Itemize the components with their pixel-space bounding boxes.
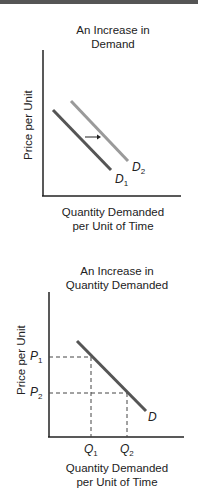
chart2-title-line2: Quantity Demanded <box>47 278 187 292</box>
chart2-title-line1: An Increase in <box>47 264 187 278</box>
chart2-q1-tick-label: Q1 <box>84 442 98 458</box>
chart2-p2-tick-label: P2 <box>30 385 42 401</box>
chart2-axes <box>48 292 184 437</box>
chart2-title: An Increase in Quantity Demanded <box>47 264 187 292</box>
chart1-d2-curve <box>71 101 128 161</box>
chart2-d-label: D <box>148 410 157 424</box>
chart1-d2-label: D2 <box>132 160 145 176</box>
chart1-x-axis-label: Quantity Demanded per Unit of Time <box>43 205 183 233</box>
chart1-axes <box>42 50 181 196</box>
chart2-guides <box>49 357 127 437</box>
chart1-shift-arrow-icon <box>85 135 101 140</box>
chart2-y-axis-label: Price per Unit <box>15 325 27 395</box>
chart1-d1-label: D1 <box>115 172 128 188</box>
charts-canvas <box>0 0 198 499</box>
chart2-demand-curve <box>77 341 146 411</box>
chart2-x-axis-label: Quantity Demanded per Unit of Time <box>47 461 187 489</box>
chart1-d1-curve <box>53 110 111 170</box>
chart2-q2-tick-label: Q2 <box>120 442 134 458</box>
chart2-p1-tick-label: P1 <box>30 349 42 365</box>
